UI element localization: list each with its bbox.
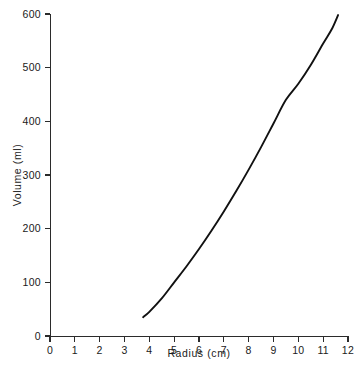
x-tick-label: 1 bbox=[72, 344, 78, 356]
x-tick-label: 11 bbox=[317, 344, 329, 356]
x-tick-label: 3 bbox=[121, 344, 127, 356]
y-tick-label: 600 bbox=[23, 8, 41, 20]
x-tick-label: 4 bbox=[146, 344, 152, 356]
x-axis-title: Radius (cm) bbox=[167, 347, 230, 359]
y-axis-title: Volume (ml) bbox=[11, 144, 23, 207]
y-tick-label-group: 0100200300400500600 bbox=[23, 8, 41, 342]
y-tick-group bbox=[45, 14, 50, 336]
x-tick-label: 2 bbox=[97, 344, 103, 356]
x-tick-label: 12 bbox=[342, 344, 354, 356]
x-tick-label: 9 bbox=[270, 344, 276, 356]
y-tick-label: 100 bbox=[23, 276, 41, 288]
y-tick-label: 0 bbox=[35, 330, 41, 342]
chart-canvas: 0100200300400500600 0123456789101112 Rad… bbox=[0, 0, 364, 365]
x-tick-label: 8 bbox=[246, 344, 252, 356]
y-tick-label: 400 bbox=[23, 115, 41, 127]
volume-vs-radius-chart: 0100200300400500600 0123456789101112 Rad… bbox=[0, 0, 364, 365]
y-tick-label: 500 bbox=[23, 61, 41, 73]
x-tick-label: 10 bbox=[292, 344, 304, 356]
y-tick-label: 200 bbox=[23, 222, 41, 234]
y-tick-label: 300 bbox=[23, 169, 41, 181]
volume-curve bbox=[143, 15, 338, 317]
x-tick-label: 0 bbox=[47, 344, 53, 356]
